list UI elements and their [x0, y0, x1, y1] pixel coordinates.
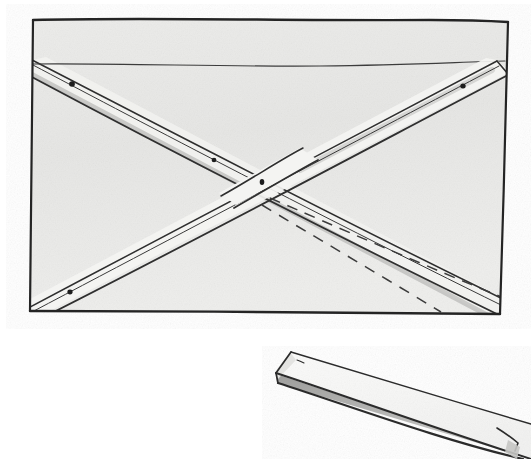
screw-hole-center	[260, 179, 265, 185]
screw-hole-mid-left	[212, 158, 217, 162]
illustration-canvas	[0, 0, 531, 459]
handdrawn-diagram-svg	[0, 0, 531, 459]
screw-hole-upper-left	[69, 81, 75, 86]
figure-braced-frame-panel	[28, 19, 510, 318]
screw-hole-lower-left	[67, 290, 72, 295]
screw-hole-upper-right	[460, 84, 465, 89]
